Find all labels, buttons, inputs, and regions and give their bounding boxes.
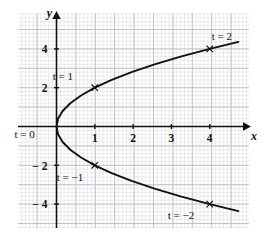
plot-svg: 123442− 2− 4 t = 2t = 1t = 0t = −1t = −2… xyxy=(0,0,268,243)
x-tick-label: 2 xyxy=(130,132,136,144)
param-label-t-1: t = 1 xyxy=(53,70,73,82)
param-label-t--1: t = −1 xyxy=(57,171,83,183)
y-axis-label: y xyxy=(45,6,53,20)
x-tick-label: 3 xyxy=(169,132,175,144)
param-label-t--2: t = −2 xyxy=(168,209,194,221)
parametric-curve-figure: 123442− 2− 4 t = 2t = 1t = 0t = −1t = −2… xyxy=(0,0,268,243)
x-tick-label: 1 xyxy=(92,132,98,144)
param-label-t-0: t = 0 xyxy=(15,128,36,140)
y-tick-label: − 4 xyxy=(32,198,47,210)
x-axis-label: x xyxy=(250,129,257,143)
y-tick-label: 4 xyxy=(42,43,48,55)
y-tick-label: 2 xyxy=(42,82,48,94)
x-tick-label: 4 xyxy=(207,132,213,144)
param-label-t-2: t = 2 xyxy=(212,30,232,42)
y-tick-label: − 2 xyxy=(32,160,47,172)
